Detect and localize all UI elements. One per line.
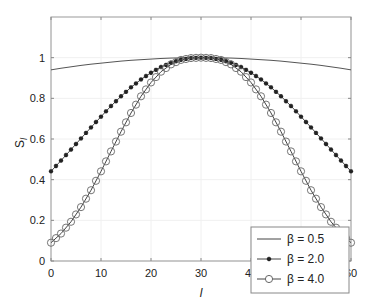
star-marker xyxy=(339,158,343,162)
star-marker xyxy=(144,74,148,78)
star-marker xyxy=(49,169,53,173)
star-marker xyxy=(124,90,128,94)
star-marker xyxy=(74,142,78,146)
star-marker xyxy=(69,147,73,151)
x-axis-label: l xyxy=(200,286,203,300)
star-marker xyxy=(319,136,323,140)
legend-circle-icon xyxy=(265,275,272,282)
star-marker xyxy=(119,94,123,98)
star-marker xyxy=(79,136,83,140)
star-marker xyxy=(344,164,348,168)
star-marker xyxy=(299,114,303,118)
star-marker xyxy=(289,104,293,108)
y-tick-label: 0.6 xyxy=(30,133,45,145)
legend-star-icon xyxy=(267,257,271,261)
star-marker xyxy=(84,131,88,135)
legend-label: β = 0.5 xyxy=(287,232,325,246)
star-marker xyxy=(94,120,98,124)
star-marker xyxy=(254,74,258,78)
star-marker xyxy=(279,94,283,98)
x-tick-label: 0 xyxy=(48,267,54,279)
star-marker xyxy=(309,125,313,129)
star-marker xyxy=(134,81,138,85)
star-marker xyxy=(109,104,113,108)
y-tick-label: 0.4 xyxy=(30,174,45,186)
y-tick-label: 0.8 xyxy=(30,92,45,104)
star-marker xyxy=(89,125,93,129)
star-marker xyxy=(269,85,273,89)
star-marker xyxy=(149,71,153,75)
star-marker xyxy=(264,81,268,85)
line-chart: 010203040506000.20.40.60.81lSlβ = 0.5β =… xyxy=(0,0,374,305)
star-marker xyxy=(314,131,318,135)
star-marker xyxy=(259,77,263,81)
y-tick-label: 0 xyxy=(39,255,45,267)
legend-label: β = 4.0 xyxy=(287,272,325,286)
star-marker xyxy=(329,147,333,151)
star-marker xyxy=(129,85,133,89)
star-marker xyxy=(284,99,288,103)
star-marker xyxy=(304,120,308,124)
star-marker xyxy=(334,153,338,157)
star-marker xyxy=(114,99,118,103)
x-tick-label: 10 xyxy=(95,267,107,279)
star-marker xyxy=(64,153,68,157)
star-marker xyxy=(294,109,298,113)
star-marker xyxy=(324,142,328,146)
star-marker xyxy=(249,71,253,75)
y-tick-label: 0.2 xyxy=(30,214,45,226)
x-tick-label: 30 xyxy=(195,267,207,279)
x-tick-label: 20 xyxy=(145,267,157,279)
star-marker xyxy=(139,77,143,81)
star-marker xyxy=(274,90,278,94)
y-axis-label: Sl xyxy=(13,137,29,148)
star-marker xyxy=(54,164,58,168)
star-marker xyxy=(99,114,103,118)
star-marker xyxy=(349,169,353,173)
star-marker xyxy=(104,109,108,113)
y-tick-label: 1 xyxy=(39,52,45,64)
star-marker xyxy=(59,158,63,162)
chart-figure: 010203040506000.20.40.60.81lSlβ = 0.5β =… xyxy=(0,0,374,305)
legend-label: β = 2.0 xyxy=(287,252,325,266)
